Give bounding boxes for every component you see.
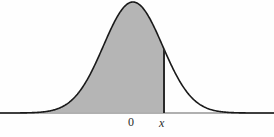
axis-tick-label-zero: 0	[128, 116, 134, 128]
axis-tick-label-x: x	[159, 117, 164, 129]
shaded-area-region	[0, 2, 164, 113]
bell-curve-plot	[0, 0, 274, 137]
normal-distribution-figure: 0 x	[0, 0, 274, 137]
